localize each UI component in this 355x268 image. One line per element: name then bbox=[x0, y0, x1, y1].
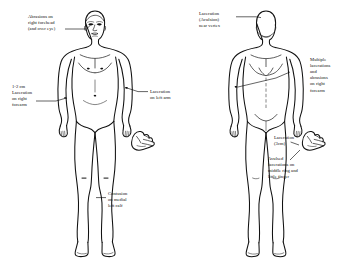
knee-right-front bbox=[82, 178, 87, 179]
label-vertex: Laceration (Avulsion) near vertex bbox=[199, 11, 221, 28]
diagram-svg: Abrasions on right forehead (and over ey… bbox=[0, 0, 355, 268]
injury-diagram-canvas: Abrasions on right forehead (and over ey… bbox=[0, 0, 355, 268]
label-forehead: Abrasions on right forehead (and over ey… bbox=[28, 14, 56, 31]
knee-left-front bbox=[104, 178, 109, 179]
label-left-arm: Laceration on left arm bbox=[150, 89, 171, 100]
